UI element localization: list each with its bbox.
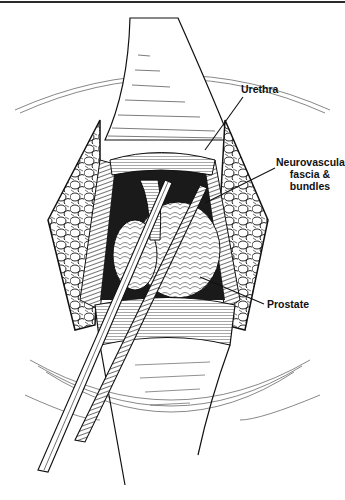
label-neurovascular-line2: fascia & bbox=[276, 168, 344, 180]
label-neurovascular-line3: bundles bbox=[276, 180, 344, 192]
illustration-frame: Urethra Neurovascular fascia & bundles P… bbox=[0, 0, 345, 500]
upper-shaft bbox=[105, 18, 230, 140]
label-urethra: Urethra bbox=[241, 83, 278, 95]
surgical-illustration bbox=[0, 0, 345, 500]
label-neurovascular-line1: Neurovascular bbox=[276, 156, 344, 168]
label-prostate: Prostate bbox=[267, 298, 309, 310]
lower-shaft bbox=[95, 298, 235, 486]
label-neurovascular: Neurovascular fascia & bundles bbox=[276, 156, 344, 192]
